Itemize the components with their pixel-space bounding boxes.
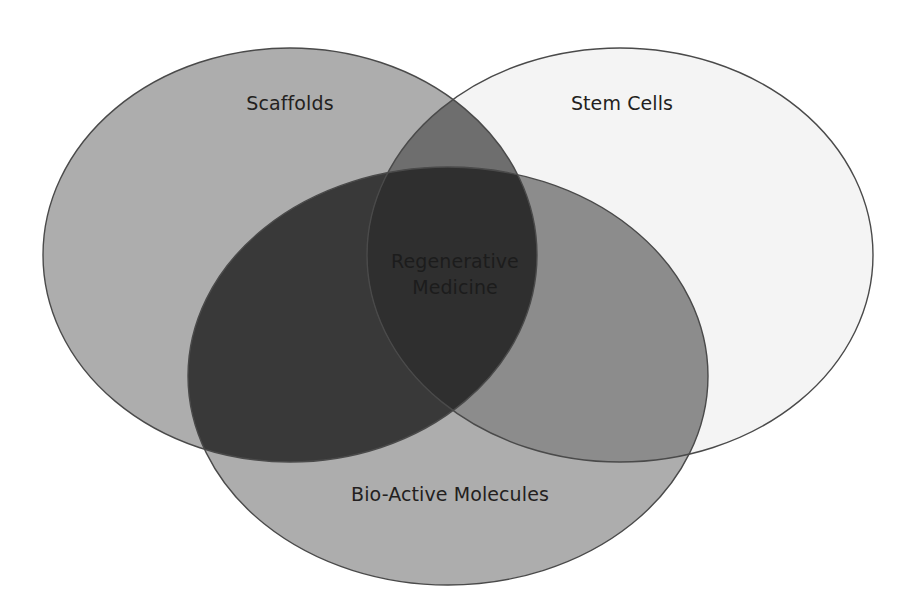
set-label-stem-cells: Stem Cells — [571, 92, 673, 114]
intersection-label-line-1: Regenerative — [391, 250, 519, 272]
venn-diagram-canvas: Regenerative Medicine — [0, 0, 907, 616]
intersection-label-line-2: Medicine — [412, 276, 498, 298]
set-label-scaffolds: Scaffolds — [246, 92, 333, 114]
set-label-bio-active-molecules: Bio-Active Molecules — [351, 483, 549, 505]
venn-diagram-svg: Regenerative Medicine — [0, 0, 907, 616]
